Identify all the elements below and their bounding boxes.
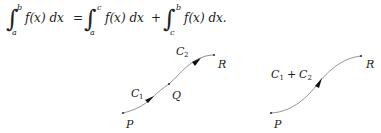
label-p: P	[273, 118, 282, 131]
point-r	[213, 54, 215, 56]
arrow-c1-icon	[145, 96, 154, 103]
left-diagram: P Q R C 1 C 2	[122, 45, 226, 131]
label-c1-plus-c2: C1+C2	[271, 68, 312, 82]
path-diagrams: P Q R C 1 C 2 P R C1+C2	[0, 0, 381, 133]
arrow-c2-icon	[192, 58, 201, 66]
label-c1-sub: 1	[139, 93, 143, 101]
label-q: Q	[172, 89, 181, 102]
label-p: P	[125, 118, 134, 131]
point-r	[360, 55, 362, 57]
right-diagram: P R C1+C2	[270, 55, 374, 131]
label-c2-sub: 2	[184, 51, 188, 59]
curve-c1-plus-c2	[271, 56, 361, 113]
point-p	[122, 112, 124, 114]
label-r: R	[217, 58, 226, 71]
label-r: R	[365, 58, 374, 71]
point-q	[168, 83, 170, 85]
arrow-c1-plus-c2-icon	[315, 78, 322, 88]
point-p	[270, 112, 272, 114]
